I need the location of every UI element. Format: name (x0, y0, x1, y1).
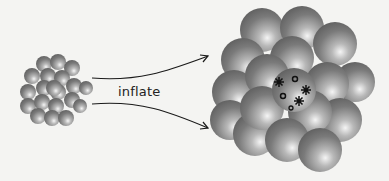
star-icon (301, 85, 311, 95)
small-cluster (20, 54, 93, 126)
inflate-label: inflate (118, 84, 161, 99)
star-icon (294, 96, 304, 106)
arrow-up (92, 56, 208, 79)
arrow-down (92, 103, 208, 128)
star-icon (274, 77, 284, 87)
inflation-diagram (0, 0, 389, 181)
large-cluster (210, 6, 375, 172)
